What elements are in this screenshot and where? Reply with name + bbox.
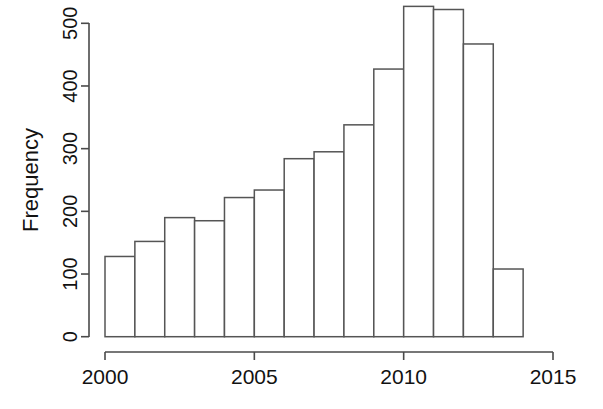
histogram-bar: [135, 241, 165, 336]
histogram-bar: [105, 256, 135, 336]
histogram-bar: [284, 159, 314, 337]
histogram-bar: [434, 10, 464, 337]
y-tick-label: 100: [59, 257, 81, 290]
bars-group: [105, 6, 523, 336]
y-tick-label: 400: [59, 69, 81, 102]
histogram-bar: [165, 218, 195, 337]
x-tick-label: 2015: [530, 365, 577, 388]
histogram-bar: [463, 44, 493, 337]
histogram-bar: [224, 198, 254, 337]
y-axis-title: Frequency: [18, 128, 43, 232]
y-tick-label: 500: [59, 7, 81, 40]
y-tick-label: 0: [59, 331, 81, 342]
x-tick-label: 2010: [380, 365, 427, 388]
histogram-bar: [254, 190, 284, 337]
x-tick-label: 2005: [231, 365, 278, 388]
histogram-bar: [493, 269, 523, 337]
y-tick-marks: [81, 23, 89, 336]
x-tick-labels: 2000200520102015: [82, 365, 577, 388]
histogram-bar: [344, 125, 374, 337]
histogram-bar: [374, 69, 404, 337]
histogram-plot: 0100200300400500 2000200520102015 Freque…: [0, 0, 603, 409]
y-tick-label: 300: [59, 132, 81, 165]
histogram-bar: [314, 152, 344, 337]
histogram-figure: 0100200300400500 2000200520102015 Freque…: [0, 0, 603, 409]
histogram-bar: [195, 221, 225, 337]
histogram-bar: [404, 6, 434, 336]
y-tick-label: 200: [59, 195, 81, 228]
x-axis: 2000200520102015: [82, 352, 577, 388]
x-tick-marks: [105, 352, 553, 360]
y-tick-labels: 0100200300400500: [59, 7, 81, 343]
y-axis: 0100200300400500: [59, 7, 89, 343]
x-tick-label: 2000: [82, 365, 129, 388]
